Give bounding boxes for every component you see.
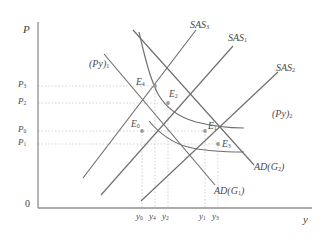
curve-label-SAS1-base: SAS: [228, 32, 244, 43]
curve-label-ADG2-base: AD(G: [254, 161, 278, 172]
curve-label-SAS2-sub: 2: [292, 66, 295, 73]
guide-lines: [38, 86, 218, 208]
tick-label-y4: y4: [149, 212, 156, 222]
tick-label-P2-sub: 2: [24, 100, 27, 106]
point-E3: [216, 142, 220, 146]
curve-SAS2: [141, 72, 278, 201]
curve-label-SAS1-sub: 1: [244, 36, 247, 43]
equilibrium-label-E2-sub: 2: [175, 93, 178, 99]
tick-label-y3: y3: [212, 212, 219, 222]
curve-label-SAS3: SAS3: [190, 20, 209, 31]
axes: [38, 22, 312, 208]
diagram-canvas: [0, 0, 328, 246]
curve-label-Py2: (Py)2: [272, 109, 292, 120]
tick-label-P0-sub: 0: [24, 128, 27, 134]
x-axis-label: y: [303, 214, 308, 225]
tick-label-y0-sub: 0: [140, 215, 143, 221]
tick-label-y3-sub: 3: [216, 215, 219, 221]
curve-label-Py1-sub: 1: [106, 62, 109, 69]
equilibrium-label-E1: E1: [208, 122, 217, 132]
curve-label-Py1-base: (Py): [89, 58, 106, 69]
curves: [83, 30, 278, 201]
tick-label-y0: y0: [136, 212, 143, 222]
tick-label-P1-sub: 1: [24, 141, 27, 147]
equilibrium-label-E4-sub: 4: [142, 81, 145, 87]
curve-label-ADG1-base: AD(G: [214, 185, 238, 196]
tick-label-y4-sub: 4: [153, 215, 156, 221]
equilibrium-label-E4: E4: [136, 78, 145, 88]
y-axis-label: P: [23, 24, 30, 35]
point-E4: [153, 84, 157, 88]
point-E2: [166, 101, 170, 105]
curve-ADG1: [104, 54, 215, 185]
origin-label: 0: [25, 199, 30, 209]
curve-label-SAS2-base: SAS: [276, 62, 292, 73]
tick-label-y1-sub: 1: [203, 215, 206, 221]
equilibrium-label-E2: E2: [169, 90, 178, 100]
equilibrium-label-E3: E3: [222, 140, 231, 150]
curve-label-ADG1: AD(G1): [214, 186, 244, 197]
as-ad-diagram: P y 0 P3 P2 P0 P1 y0 y4 y2 y1 y3 SAS3 SA…: [0, 0, 328, 246]
curve-ADG2: [133, 30, 254, 165]
tick-label-y2-sub: 2: [166, 215, 169, 221]
curve-label-SAS3-base: SAS: [190, 19, 206, 30]
curve-label-ADG1-tail: ): [241, 185, 244, 196]
equilibrium-label-E0: E0: [131, 120, 140, 130]
curve-label-Py1: (Py)1: [89, 59, 109, 70]
curve-SAS3: [83, 30, 196, 178]
curve-label-ADG2: AD(G2): [254, 162, 284, 173]
tick-label-P3-sub: 3: [24, 83, 27, 89]
curve-label-SAS1: SAS1: [228, 33, 247, 44]
tick-label-P3: P3: [18, 80, 26, 90]
tick-label-y2: y2: [162, 212, 169, 222]
tick-label-y1: y1: [199, 212, 206, 222]
point-E1: [203, 129, 207, 133]
curve-label-ADG2-tail: ): [281, 161, 284, 172]
tick-label-P0: P0: [18, 125, 26, 135]
equilibrium-label-E1-sub: 1: [214, 125, 217, 131]
curve-label-SAS3-sub: 3: [206, 23, 209, 30]
equilibrium-label-E0-sub: 0: [137, 123, 140, 129]
tick-label-P1: P1: [18, 138, 26, 148]
equilibrium-label-E3-sub: 3: [228, 143, 231, 149]
point-E0: [140, 129, 144, 133]
curve-label-Py2-sub: 2: [289, 112, 292, 119]
curve-label-SAS2: SAS2: [276, 63, 295, 74]
tick-label-P2: P2: [18, 97, 26, 107]
curve-label-Py2-base: (Py): [272, 108, 289, 119]
